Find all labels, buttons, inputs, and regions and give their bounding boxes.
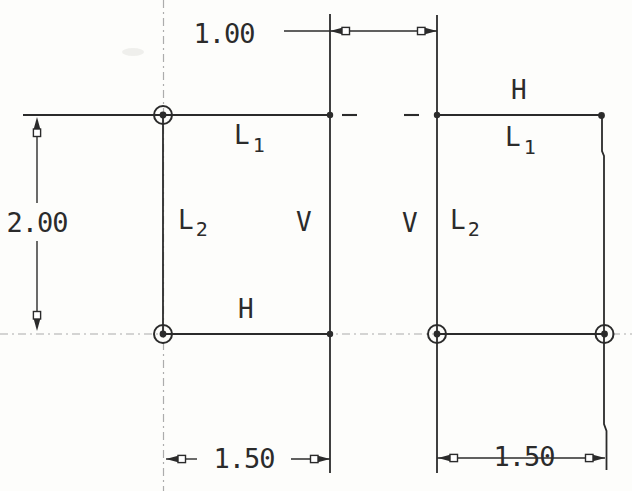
right-figure-horizontal-constraint-label: H (511, 75, 527, 105)
right-figure-line2-label: L2 (450, 205, 480, 241)
dim-text-left-width: 1.50 (213, 443, 274, 474)
right-figure-right-line (602, 115, 607, 470)
left-figure-vertical-constraint-label: V (296, 207, 312, 237)
arrow-icon-height-bottom (33, 312, 40, 332)
endpoint-marker (434, 112, 440, 118)
arrow-icon-gap-left (330, 27, 350, 34)
arrow-icon-height-top (33, 117, 40, 137)
dim-text-gap: 1.00 (193, 18, 254, 49)
arrow-icon-right-width-left (438, 454, 458, 461)
dim-text-right-width: 1.50 (493, 441, 554, 472)
right-figure-line1-label: L1 (505, 122, 536, 159)
arrow-icon-right-width-right (586, 454, 606, 461)
left-figure-line2-label: L2 (178, 205, 208, 241)
sketch-drawing: 1.00 2.00 1.50 1.50 L1 L2 V H H L1 V L2 (0, 0, 632, 491)
arrow-icon-left-width-left (166, 455, 186, 462)
endpoint-marker (327, 331, 333, 337)
arrow-icon-gap-right (418, 27, 438, 34)
scan-smudge (122, 48, 144, 56)
right-figure-vertical-constraint-label: V (402, 208, 418, 238)
endpoint-marker (598, 112, 605, 119)
constraint-diagram-svg: 1.00 2.00 1.50 1.50 L1 L2 V H H L1 V L2 (0, 0, 632, 491)
left-figure-line1-label: L1 (234, 120, 265, 157)
left-figure-horizontal-constraint-label: H (238, 294, 254, 324)
endpoint-marker (327, 112, 333, 118)
dim-text-height: 2.00 (6, 207, 67, 238)
arrow-icon-left-width-right (311, 455, 331, 462)
